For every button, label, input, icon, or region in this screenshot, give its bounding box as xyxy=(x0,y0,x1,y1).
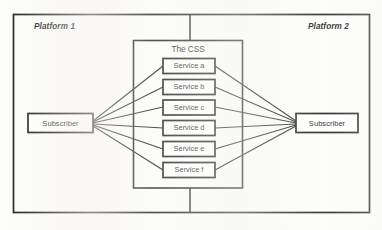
link-left-service-d xyxy=(93,124,163,128)
subscriber-left[interactable]: Subscriber xyxy=(28,114,93,133)
diagram-canvas: Platform 1 Platform 2 The CSS S xyxy=(0,0,382,230)
link-right-service-b xyxy=(215,87,296,122)
service-box-c[interactable]: Service c xyxy=(163,100,215,115)
service-box-f[interactable]: Service f xyxy=(163,163,215,178)
link-right-service-f xyxy=(215,126,296,170)
subscriber-right[interactable]: Subscriber xyxy=(296,114,358,133)
link-right-service-e xyxy=(215,125,296,149)
link-right-service-c xyxy=(215,107,296,123)
links-right-subscriber xyxy=(215,66,296,170)
service-box-e[interactable]: Service e xyxy=(163,142,215,157)
link-left-service-b xyxy=(93,87,163,122)
subscriber-left-label: Subscriber xyxy=(42,119,79,128)
link-right-service-a xyxy=(215,66,296,121)
platform-css-diagram: Platform 1 Platform 2 The CSS S xyxy=(0,0,382,230)
service-box-a[interactable]: Service a xyxy=(163,59,215,74)
css-container-title: The CSS xyxy=(171,45,205,54)
link-left-service-a xyxy=(93,66,163,121)
service-a-label: Service a xyxy=(174,61,206,70)
service-d-label: Service d xyxy=(174,123,205,132)
platform-2-label: Platform 2 xyxy=(308,22,349,31)
links-left-subscriber xyxy=(93,66,163,170)
service-b-label: Service b xyxy=(174,82,205,91)
link-right-service-d xyxy=(215,124,296,128)
link-left-service-f xyxy=(93,126,163,170)
subscriber-right-label: Subscriber xyxy=(309,119,346,128)
service-box-b[interactable]: Service b xyxy=(163,80,215,95)
service-e-label: Service e xyxy=(174,144,205,153)
platform-1-label: Platform 1 xyxy=(34,22,75,31)
link-left-service-e xyxy=(93,125,163,149)
link-left-service-c xyxy=(93,107,163,123)
service-c-label: Service c xyxy=(174,103,205,112)
service-f-label: Service f xyxy=(175,165,205,174)
service-box-d[interactable]: Service d xyxy=(163,121,215,136)
